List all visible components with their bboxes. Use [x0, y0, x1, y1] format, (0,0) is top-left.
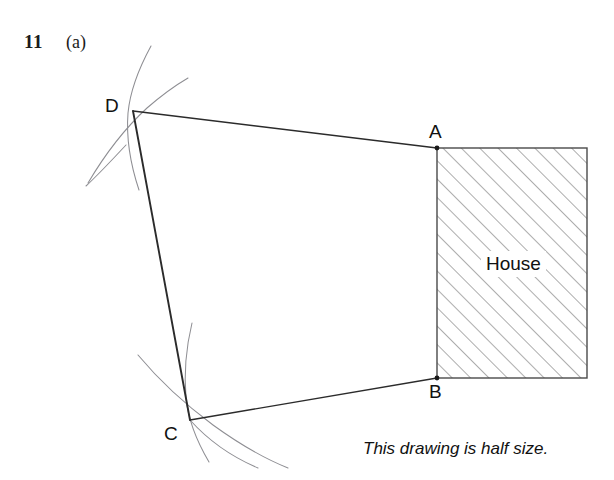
- house-label: House: [481, 251, 546, 277]
- segment-DC: [133, 111, 190, 420]
- arc-C-3: [190, 420, 258, 468]
- segment-DA: [133, 111, 437, 148]
- segment-CB: [190, 378, 437, 420]
- diagram-canvas: 11 (a): [0, 0, 614, 480]
- arc-D-3: [86, 145, 126, 186]
- point-label-c: C: [164, 424, 178, 443]
- arc-C-1: [185, 323, 209, 462]
- arc-D-1: [127, 46, 151, 190]
- construction-drawing: [0, 0, 614, 480]
- point-label-a: A: [429, 122, 442, 141]
- vertex-dot-B: [435, 376, 440, 381]
- arc-C-2: [138, 355, 288, 468]
- construction-arcs-C: [138, 323, 288, 468]
- construction-arcs-D: [86, 46, 188, 190]
- quadrilateral-DABC: [133, 111, 437, 420]
- arc-D-2: [88, 78, 188, 183]
- point-label-d: D: [105, 96, 119, 115]
- point-label-b: B: [429, 382, 442, 401]
- scale-caption: This drawing is half size.: [363, 440, 548, 457]
- vertex-dot-A: [435, 146, 440, 151]
